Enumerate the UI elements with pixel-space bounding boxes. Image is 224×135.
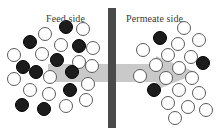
- permeate-particle-hollow: [199, 103, 213, 117]
- feed-particle-hollow: [35, 47, 49, 61]
- permeate-particle-hollow: [133, 69, 147, 83]
- permeate-particle-hollow: [161, 48, 175, 62]
- feed-particle-hollow: [43, 70, 57, 84]
- feed-particle-hollow: [7, 72, 21, 86]
- feed-particle-hollow: [42, 87, 56, 101]
- feed-particle-hollow: [59, 99, 73, 113]
- feed-particle-filled: [16, 60, 30, 74]
- feed-particle-hollow: [86, 41, 100, 55]
- feed-particle-filled: [15, 98, 29, 112]
- permeate-particle-hollow: [168, 111, 182, 125]
- permeate-particle-hollow: [192, 33, 206, 47]
- feed-particle-filled: [23, 35, 37, 49]
- permeate-particle-filled: [196, 56, 210, 70]
- feed-particle-hollow: [85, 59, 99, 73]
- permeate-particle-hollow: [149, 58, 163, 72]
- feed-particle-hollow: [23, 83, 37, 97]
- permeate-particle-hollow: [181, 100, 195, 114]
- permeate-particle-hollow: [159, 71, 173, 85]
- permeate-particle-filled: [153, 31, 167, 45]
- feed-side-label: Feed side: [46, 13, 85, 24]
- feed-particle-hollow: [54, 38, 68, 52]
- permeate-side-label: Permeate side: [126, 13, 183, 24]
- feed-particle-filled: [50, 53, 64, 67]
- feed-particle-filled: [65, 65, 79, 79]
- feed-particle-filled: [72, 39, 86, 53]
- permeate-particle-filled: [147, 83, 161, 97]
- permeate-particle-hollow: [172, 83, 186, 97]
- feed-particle-hollow: [38, 27, 52, 41]
- permeate-particle-hollow: [161, 96, 175, 110]
- feed-particle-hollow: [76, 22, 90, 36]
- membrane-separation-figure: Feed side Permeate side: [0, 0, 224, 135]
- feed-particle-hollow: [81, 77, 95, 91]
- permeate-particle-hollow: [185, 71, 199, 85]
- permeate-particle-hollow: [172, 61, 186, 75]
- feed-particle-filled: [37, 102, 51, 116]
- feed-particle-hollow: [79, 93, 93, 107]
- permeate-particle-hollow: [192, 86, 206, 100]
- permeate-particle-hollow: [136, 43, 150, 57]
- feed-particle-filled: [63, 83, 77, 97]
- membrane-barrier: [108, 8, 116, 128]
- feed-particle-filled: [29, 65, 43, 79]
- permeate-particle-hollow: [171, 37, 185, 51]
